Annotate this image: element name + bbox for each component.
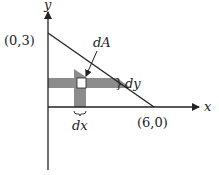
dy-label: dy: [125, 76, 141, 91]
y-intercept-label: (0,3): [4, 33, 35, 48]
y-axis-label: y: [43, 0, 52, 12]
area-element-square: [77, 78, 86, 88]
dy-brace: }: [115, 77, 123, 91]
dA-pointer-arrow: [86, 51, 97, 76]
dA-label: dA: [93, 35, 111, 50]
x-intercept-label: (6,0): [137, 115, 168, 130]
dx-brace: [74, 111, 86, 116]
area-element-diagram: y x (0,3) (6,0) dA } dy dx: [0, 0, 219, 175]
dx-label: dx: [72, 118, 88, 133]
x-axis-label: x: [204, 99, 212, 114]
